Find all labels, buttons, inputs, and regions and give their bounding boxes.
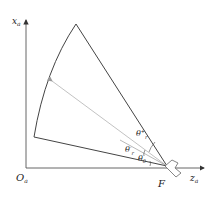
angle-label-theta-r-plus: θ+r [136, 128, 148, 140]
angle-label-theta-0: θ0 [138, 154, 147, 164]
vertical-axis-label: xa [12, 16, 21, 27]
sector-outline [34, 24, 167, 166]
focus-emitter-icon [165, 160, 181, 177]
diagram-canvas: xa za Oa F θ+r θ-r θ0 [0, 0, 220, 199]
origin-label: Oa [16, 172, 28, 184]
horizontal-axis-label: za [189, 173, 199, 184]
angle-label-theta-r-minus: θ-r [125, 144, 135, 156]
axes [26, 20, 204, 168]
angle-arc-theta-0 [150, 161, 151, 166]
focus-label: F [157, 178, 166, 189]
angle-arc-theta-minus [144, 150, 145, 156]
